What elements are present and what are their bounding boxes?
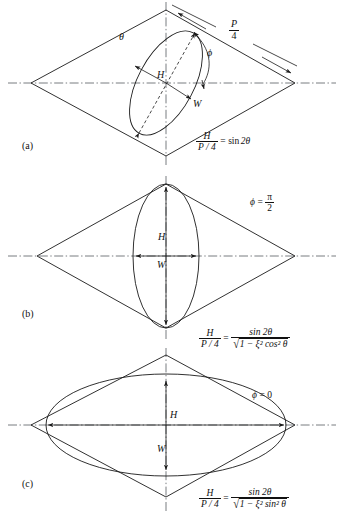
panel-a-phi-label: ϕ — [207, 48, 212, 58]
panel-a-h-label: H — [157, 70, 164, 80]
panel-a-phi-arrow-upper — [194, 32, 199, 38]
panel-a-eq-rhs: sin2θ — [228, 137, 250, 147]
panel-c-phi-value: 0 — [267, 391, 272, 401]
panel-c-equation: H P / 4 = sin 2θ √ 1 − ξ² sin² θ — [199, 487, 289, 510]
panel-c-phi-condition: ϕ = 0 — [252, 391, 272, 401]
panel-c-eq-rhs-denominator: √ 1 − ξ² sin² θ — [231, 498, 289, 509]
panel-c-w-label: W — [157, 444, 165, 454]
panel-a-theta-label: θ — [119, 32, 124, 42]
figure-root: θ ϕ H W P 4 (a) H P / 4 = sin2θ ϕ = π 2 … — [0, 0, 344, 523]
panel-a-dim-ext-top — [172, 5, 216, 27]
panel-a-eq-arg: 2θ — [239, 136, 250, 146]
panel-c-eq-relation: = — [221, 494, 231, 504]
panel-c-radical-icon: √ — [233, 497, 239, 510]
panel-a-caption: (a) — [22, 140, 33, 151]
panel-a-linework — [8, 2, 336, 165]
panel-c-h-label: H — [170, 410, 177, 420]
panel-a-equation: H P / 4 = sin2θ — [196, 131, 250, 153]
panel-c-eq-lhs-numerator: H — [199, 488, 221, 499]
panel-b-phi-relation: = — [255, 198, 265, 208]
panel-b-eq-relation: = — [221, 334, 231, 344]
panel-b-eq-rhs-numerator: sin 2θ — [231, 327, 290, 338]
panel-c-eq-lhs-denominator: P / 4 — [199, 499, 221, 509]
panel-b-caption: (b) — [22, 308, 34, 319]
panel-a-side-denominator: 4 — [229, 31, 239, 42]
panel-a-eq-sin: sin — [228, 136, 239, 146]
panel-a-w-arrow — [166, 83, 191, 99]
panel-a-eq-lhs-denominator: P / 4 — [196, 142, 218, 152]
panel-a-w-label: W — [193, 99, 201, 109]
panel-c-phi-relation: = — [257, 391, 267, 401]
panel-a-eq-lhs-numerator: H — [196, 131, 218, 142]
panel-b-phi-denominator: 2 — [265, 203, 274, 213]
panel-b-eq-lhs-denominator: P / 4 — [199, 339, 221, 349]
panel-b-eq-rhs: sin 2θ √ 1 − ξ² cos² θ — [231, 327, 290, 350]
panel-b-eq-rhs-denominator: √ 1 − ξ² cos² θ — [231, 338, 290, 349]
panel-a-side-label-p-over-4: P 4 — [229, 19, 239, 42]
panel-b-phi-numerator: π — [265, 192, 274, 203]
panel-b-radicand: 1 − ξ² cos² θ — [239, 338, 289, 349]
panel-a-dim-arrow-bottom — [262, 57, 291, 73]
panel-a-phi-arrow-lower — [202, 80, 204, 89]
panel-b-radical-icon: √ — [233, 337, 239, 350]
panel-b-equation: H P / 4 = sin 2θ √ 1 − ξ² cos² θ — [199, 327, 290, 350]
panel-c-caption: (c) — [22, 478, 33, 489]
panel-a-eq-relation: = — [218, 137, 228, 147]
panel-b-eq-lhs-numerator: H — [199, 328, 221, 339]
panel-b-w-label: W — [157, 260, 165, 270]
panel-b-linework — [8, 176, 336, 340]
figure-linework — [0, 0, 344, 523]
panel-c-eq-rhs: sin 2θ √ 1 − ξ² sin² θ — [231, 487, 289, 510]
panel-c-radicand: 1 − ξ² sin² θ — [239, 498, 287, 509]
panel-b-h-label: H — [158, 232, 165, 242]
panel-c-eq-rhs-numerator: sin 2θ — [231, 487, 289, 498]
panel-b-phi-condition: ϕ = π 2 — [250, 192, 274, 214]
